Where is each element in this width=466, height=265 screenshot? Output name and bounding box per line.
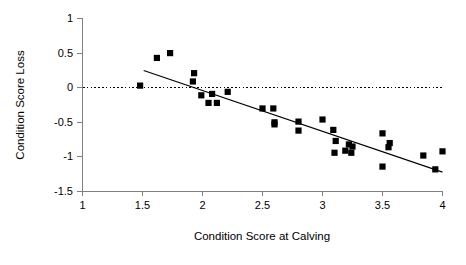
x-tick-label: 2 [199,199,205,211]
data-point [348,150,354,156]
data-point [319,116,325,122]
data-point [349,143,355,149]
scatter-plot: 1 0.5 0 -0.5 -1 -1.5 1 1.5 2 2.5 3 3.5 4… [0,0,466,265]
data-point [385,144,391,150]
data-point [295,128,301,134]
x-tick-labels: 1 1.5 2 2.5 3 3.5 4 [79,199,445,211]
data-point [342,148,348,154]
data-point [379,130,385,136]
y-tick-label: -1.5 [54,185,73,197]
data-point [420,152,426,158]
axes [82,18,443,192]
trend-line [144,70,443,172]
data-point [379,163,385,169]
x-tick-label: 3 [319,199,325,211]
data-point [205,100,211,106]
y-tick-label: 0.5 [58,47,73,59]
data-point [330,127,336,133]
data-point [214,100,220,106]
data-point [209,91,215,97]
data-points-group [137,50,446,172]
data-point [190,78,196,84]
data-point [270,105,276,111]
x-tick-label: 3.5 [375,199,390,211]
x-tick-label: 1 [79,199,85,211]
data-point [225,89,231,95]
data-point [333,138,339,144]
data-point [439,148,445,154]
y-tick-labels: 1 0.5 0 -0.5 -1 -1.5 [54,12,73,197]
data-point [331,150,337,156]
y-tick-marks [77,19,82,192]
data-point [198,92,204,98]
y-tick-label: 0 [67,81,73,93]
data-point [432,166,438,172]
data-point [271,121,277,127]
data-point [137,83,143,89]
x-tick-label: 1.5 [135,199,150,211]
chart-figure: 1 0.5 0 -0.5 -1 -1.5 1 1.5 2 2.5 3 3.5 4… [0,0,466,265]
data-point [167,50,173,56]
data-point [154,55,160,61]
data-point [191,70,197,76]
x-tick-label: 4 [439,199,445,211]
data-point [259,105,265,111]
data-point [295,119,301,125]
y-axis-title: Condition Score Loss [14,50,26,160]
y-tick-label: 1 [67,12,73,24]
x-tick-label: 2.5 [255,199,270,211]
x-axis-title: Condition Score at Calving [194,230,330,242]
y-tick-label: -1 [63,150,73,162]
y-tick-label: -0.5 [54,116,73,128]
